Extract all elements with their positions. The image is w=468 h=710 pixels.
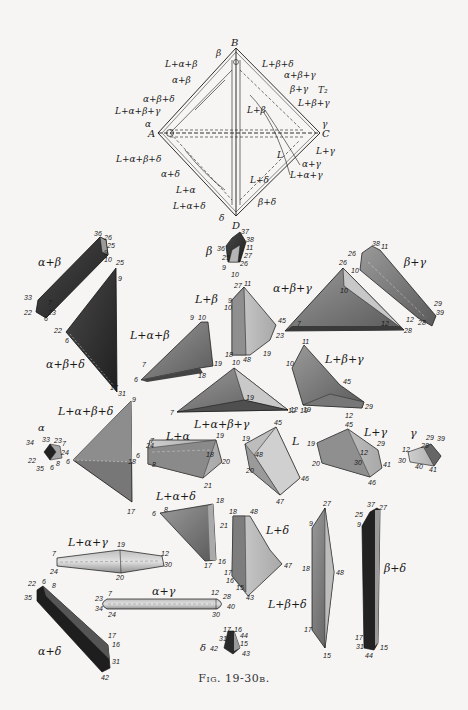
svg-text:24: 24 [60, 449, 69, 456]
polyhedron-l-alpha-delta: L+α+δ 6818 211716 [152, 490, 228, 569]
label-l-alpha-beta: L+α+β [129, 329, 170, 342]
tetrahedron-labels: B A C D T₂ β L+α+β α+β α+β+δ L+α+β+γ α L… [114, 37, 336, 231]
svg-text:12: 12 [211, 589, 219, 596]
svg-text:23: 23 [275, 332, 284, 339]
svg-text:28: 28 [420, 442, 429, 449]
svg-text:17: 17 [223, 626, 232, 633]
svg-text:44: 44 [365, 652, 373, 659]
svg-text:46: 46 [368, 479, 376, 486]
svg-text:18: 18 [198, 372, 206, 379]
svg-text:34: 34 [95, 605, 103, 612]
region-label-l-gamma: L+γ [315, 146, 336, 156]
svg-text:24: 24 [107, 611, 116, 618]
label-l: L [291, 435, 299, 448]
svg-text:39: 39 [436, 309, 444, 316]
svg-text:15: 15 [240, 640, 248, 647]
svg-text:20: 20 [245, 467, 254, 474]
svg-text:33: 33 [42, 436, 50, 443]
svg-text:33: 33 [24, 294, 32, 301]
svg-text:9: 9 [104, 249, 108, 256]
svg-text:11: 11 [302, 338, 309, 345]
label-alpha-beta-gamma: α+β+γ [273, 282, 312, 295]
polyhedron-l-alpha-beta-delta: L+α+β+δ 9618 17 [57, 396, 136, 515]
svg-text:6: 6 [134, 376, 138, 383]
svg-text:38: 38 [246, 236, 254, 243]
svg-text:7: 7 [170, 409, 175, 416]
svg-text:38: 38 [372, 240, 380, 247]
svg-text:8: 8 [56, 460, 60, 467]
svg-text:35: 35 [36, 465, 44, 472]
label-l-beta-delta: L+β+δ [267, 598, 307, 611]
svg-text:45: 45 [274, 419, 282, 426]
region-label-alpha-delta: α+δ [161, 169, 180, 179]
svg-text:15: 15 [236, 584, 244, 591]
svg-text:28: 28 [403, 327, 412, 334]
svg-text:7: 7 [52, 550, 57, 557]
polyhedron-l-alpha-gamma: L+α+γ 71912 242030 [49, 536, 172, 581]
polyhedron-alpha-delta: α+δ 2268 351716 3142 [24, 578, 120, 681]
svg-text:47: 47 [284, 562, 293, 569]
svg-text:19: 19 [263, 350, 271, 357]
svg-text:12: 12 [402, 446, 410, 453]
region-label-delta: δ [219, 213, 224, 223]
svg-text:37: 37 [367, 501, 376, 508]
svg-text:28: 28 [222, 593, 231, 600]
svg-text:17: 17 [204, 562, 213, 569]
svg-text:40: 40 [227, 603, 235, 610]
svg-text:21: 21 [203, 482, 212, 489]
region-label-beta: β [215, 48, 221, 58]
svg-text:10: 10 [232, 359, 240, 366]
svg-text:12: 12 [381, 320, 389, 327]
svg-text:11: 11 [244, 280, 251, 287]
svg-text:17: 17 [224, 569, 233, 576]
svg-text:48: 48 [336, 569, 344, 576]
svg-text:6: 6 [42, 578, 46, 585]
polyhedron-beta-delta: β+δ 372725 91731 4415 [354, 501, 407, 659]
svg-text:10: 10 [224, 304, 232, 311]
region-label-l-alpha-beta: L+α+β [164, 59, 197, 69]
svg-text:39: 39 [437, 435, 445, 442]
svg-text:9: 9 [118, 275, 122, 282]
region-label-l-alpha: L+α [175, 185, 196, 195]
region-label-l-delta: L+δ [249, 175, 269, 185]
svg-text:18: 18 [128, 458, 136, 465]
svg-text:7: 7 [62, 440, 67, 447]
svg-text:30: 30 [398, 457, 406, 464]
label-l-alpha-beta-gamma: L+α+β+γ [193, 418, 250, 431]
label-delta: δ [200, 642, 206, 653]
label-l-alpha: L+α [165, 430, 191, 443]
label-alpha-delta: α+δ [38, 645, 62, 658]
region-label-l-beta: L+β [246, 105, 266, 115]
label-l-beta-gamma: L+β+γ [324, 353, 364, 366]
svg-text:17: 17 [355, 634, 364, 641]
polyhedron-delta: δ 171631 444215 43 [200, 626, 250, 657]
svg-text:16: 16 [112, 641, 120, 648]
svg-text:30: 30 [354, 459, 362, 466]
label-alpha-beta-delta: α+β+δ [46, 358, 85, 371]
svg-text:45: 45 [343, 378, 351, 385]
label-l-beta: L+β [194, 293, 218, 306]
svg-text:10: 10 [351, 267, 359, 274]
svg-text:10: 10 [286, 360, 294, 367]
polyhedron-alpha: α 343323 72422 8356 [26, 422, 69, 472]
svg-text:26: 26 [103, 234, 112, 241]
label-l-gamma: L+γ [363, 426, 388, 439]
label-gamma: γ [410, 427, 417, 440]
svg-text:10: 10 [340, 287, 348, 294]
svg-text:11: 11 [246, 244, 253, 251]
phase-diagram: B A C D T₂ β L+α+β α+β α+β+δ L+α+β+γ α L… [0, 0, 468, 710]
svg-text:21: 21 [219, 522, 228, 529]
label-l-delta: L+δ [265, 524, 290, 537]
svg-text:30: 30 [212, 611, 220, 618]
svg-text:6: 6 [65, 337, 69, 344]
svg-text:15: 15 [380, 644, 388, 651]
svg-text:40: 40 [415, 463, 423, 470]
polyhedron-l: L 451948 204647 [242, 419, 309, 505]
label-beta-delta: β+δ [383, 562, 407, 575]
svg-text:20: 20 [311, 460, 320, 467]
svg-text:47: 47 [276, 498, 285, 505]
svg-text:25: 25 [115, 259, 124, 266]
svg-text:7: 7 [142, 361, 147, 368]
svg-text:12: 12 [360, 449, 368, 456]
svg-text:22: 22 [53, 327, 62, 334]
